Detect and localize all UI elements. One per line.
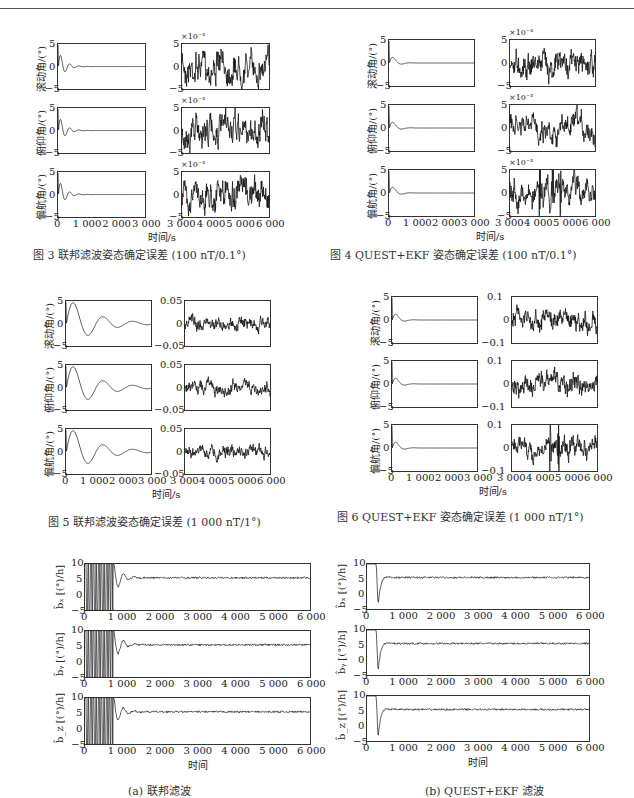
figure-caption: 图 3 联邦滤波姿态确定误差 (100 nT/0.1°) [33,246,246,262]
y-axis-label: 俯仰角/(°) [41,367,56,413]
x-tick: 0 [81,612,87,622]
x-tick: 2 000 [146,746,175,756]
y-tick: 5 [76,708,82,718]
x-tick: 5 000 [555,473,584,483]
y-tick: 5 [173,167,179,177]
y-tick: 0.05 [160,424,182,434]
y-tick: 10 [353,624,366,634]
x-tick: 1 000 [73,219,102,229]
x-tick: 6 000 [256,219,285,229]
bias-plot-3 [84,697,311,745]
y-tick: −0.05 [154,405,185,415]
x-tick: 0 [363,611,369,621]
y-axis-label: b̂_z [(°)/h] [54,693,65,743]
x-tick: 1 000 [389,743,418,753]
y-tick: −5 [169,84,184,94]
y-axis-label: b̂ᵧ [(°)/h] [336,630,347,674]
plot-left-3 [388,169,475,217]
y-tick: −5 [497,81,512,91]
y-axis-label: 偏航角/(°) [33,174,48,220]
y-axis-label: 偏航角/(°) [367,428,382,474]
y-axis-label: 滚动角/(°) [367,300,382,346]
x-tick: 3 000 [184,746,213,756]
y-tick: −0.05 [154,341,185,351]
x-tick: 3 000 [497,473,526,483]
y-axis-label: 滚动角/(°) [41,303,56,349]
y-tick: 5 [173,39,179,49]
plot-left-1 [57,43,146,90]
y-tick: 10 [71,692,84,702]
plot-right-3 [181,171,270,218]
y-multiplier: ×10⁻³ [181,96,205,105]
y-tick: 0 [49,126,55,136]
plot-right-1 [511,296,598,344]
y-tick: 5 [501,35,507,45]
y-tick: 0 [49,190,55,200]
figure-caption: 图 4 QUEST+EKF 姿态确定误差 (100 nT/0.1°) [330,246,576,262]
x-tick: 3 000 [184,679,213,689]
y-tick: 5 [49,167,55,177]
x-tick: 2 000 [427,743,456,753]
x-tick: 6 000 [257,476,286,486]
y-tick: 0 [501,58,507,68]
x-tick: 2 000 [109,476,138,486]
x-tick: 4 000 [501,677,530,687]
bias-plot-1 [84,563,311,611]
x-tick: 2 000 [432,218,461,228]
x-tick: 1 000 [406,473,435,483]
x-tick: 1 000 [108,612,137,622]
y-tick: 10 [71,625,84,635]
x-tick: 0 [363,677,369,687]
y-tick: 0 [383,379,389,389]
x-tick: 5 000 [259,679,288,689]
x-axis-label: 时间 [188,757,208,772]
x-tick: 0 [388,473,394,483]
y-tick: 0 [76,590,82,600]
y-tick: 0 [57,383,63,393]
y-axis-label: 滚动角/(°) [364,43,379,89]
y-tick: 5 [49,103,55,113]
y-tick: 10 [353,558,366,568]
x-tick: 5 000 [539,677,568,687]
x-tick: 1 000 [108,679,137,689]
x-axis-label: 时间/s [148,229,177,244]
y-tick: −0.1 [481,402,505,412]
y-tick: 5 [501,100,507,110]
x-tick: 2 000 [146,612,175,622]
plot-right-2 [184,364,271,411]
y-tick: 0.1 [487,356,503,366]
x-tick: 3 000 [464,611,493,621]
y-tick: 0 [176,447,182,457]
x-tick: 0 [62,476,68,486]
y-tick: 0 [380,58,386,68]
x-tick: 6 000 [584,473,613,483]
plot-left-3 [57,171,146,218]
y-axis-label: b̂ₓ [(°)/h] [54,565,65,609]
plot-right-1 [181,43,270,90]
x-tick: 4 000 [501,743,530,753]
x-axis-label: 时间/s [479,483,508,498]
x-tick: 3 000 [495,218,524,228]
y-multiplier: ×10⁻³ [509,28,533,37]
x-tick: 6 000 [576,611,605,621]
figure-caption: (a) 联邦滤波 [128,782,191,798]
y-tick: 5 [380,100,386,110]
x-tick: 1 000 [389,677,418,687]
x-tick: 0 [363,743,369,753]
y-tick: 0.1 [487,292,503,302]
x-tick: 3 000 [464,473,493,483]
figure-caption: 图 6 QUEST+EKF 姿态确定误差 (1 000 nT/1°) [337,508,583,524]
y-tick: 5 [383,420,389,430]
y-tick: 5 [57,424,63,434]
y-tick: 0 [49,62,55,72]
y-tick: 0 [501,188,507,198]
y-tick: 5 [380,35,386,45]
x-tick: 4 000 [221,746,250,756]
y-multiplier: ×10⁻³ [509,93,533,102]
x-tick: 0 [81,746,87,756]
plot-left-2 [65,364,152,411]
x-axis-label: 时间/s [476,228,505,243]
y-tick: 5 [57,296,63,306]
plot-left-3 [65,428,152,475]
plot-left-1 [65,300,152,347]
